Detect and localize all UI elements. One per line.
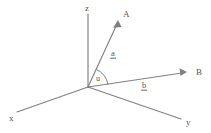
axis-line-y	[88, 87, 181, 119]
angle-label-u: u	[96, 74, 100, 83]
vector-label-a: a	[111, 48, 115, 58]
vector-label-b: b	[142, 80, 146, 90]
vector-line-b	[88, 73, 182, 87]
axis-label-y: y	[186, 117, 191, 127]
arrow-head-a	[113, 20, 121, 28]
vector-diagram-figure: z x y A B a b u	[0, 0, 211, 133]
axis-label-z: z	[85, 3, 89, 13]
vector-diagram-canvas: z x y A B a b u	[0, 0, 211, 133]
axis-line-x	[17, 87, 88, 112]
vector-tip-label-a: A	[123, 9, 130, 19]
axis-label-x: x	[9, 113, 14, 123]
vector-tip-label-b: B	[196, 67, 202, 77]
arrow-head-b	[180, 68, 187, 76]
